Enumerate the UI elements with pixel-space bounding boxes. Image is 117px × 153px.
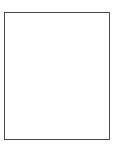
grid-frame bbox=[4, 12, 110, 140]
figure-canvas bbox=[0, 0, 117, 153]
